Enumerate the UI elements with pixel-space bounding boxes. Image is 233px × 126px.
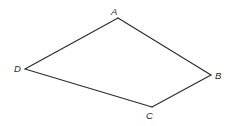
edge-da [25,18,118,69]
vertex-label-a: A [110,6,117,17]
vertex-labels: A B C D [14,6,222,121]
vertex-label-c: C [146,110,153,121]
edge-bc [152,75,211,107]
edge-ab [118,18,211,75]
edge-cd [25,69,152,107]
vertex-label-d: D [14,63,21,74]
quadrilateral-diagram: A B C D [0,0,233,126]
vertex-label-b: B [215,70,222,81]
edges [25,18,211,107]
